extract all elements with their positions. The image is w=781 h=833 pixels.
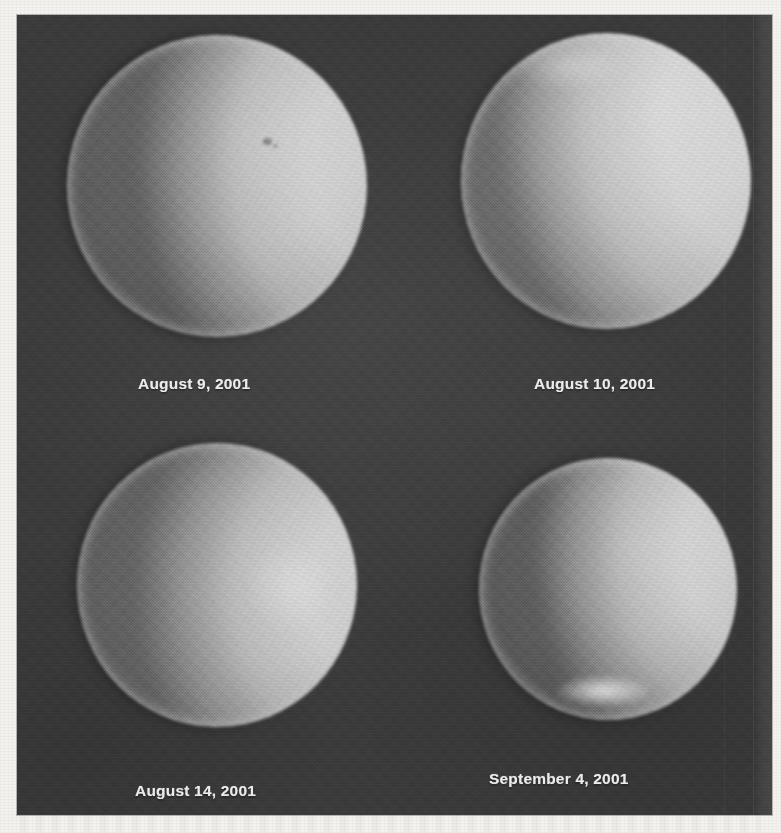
panel-september-4: September 4, 2001 bbox=[395, 415, 772, 815]
caption-september-4: September 4, 2001 bbox=[489, 770, 629, 788]
scanned-page: August 9, 2001 August 10, 2001 Augus bbox=[0, 0, 781, 833]
planet-disk-september-4 bbox=[479, 458, 737, 720]
disk-body bbox=[67, 35, 367, 337]
caption-august-10: August 10, 2001 bbox=[534, 375, 655, 393]
planet-disk-august-14 bbox=[77, 443, 357, 727]
panel-august-14: August 14, 2001 bbox=[17, 415, 417, 815]
disk-body bbox=[479, 458, 737, 720]
caption-august-9: August 9, 2001 bbox=[138, 375, 250, 393]
image-plate: August 9, 2001 August 10, 2001 Augus bbox=[17, 15, 772, 815]
planet-disk-august-10 bbox=[461, 33, 751, 329]
caption-august-14: August 14, 2001 bbox=[135, 782, 256, 800]
disk-body bbox=[461, 33, 751, 329]
panel-august-10: August 10, 2001 bbox=[395, 15, 772, 405]
planet-disk-august-9 bbox=[67, 35, 367, 337]
disk-body bbox=[77, 443, 357, 727]
panel-august-9: August 9, 2001 bbox=[17, 15, 417, 405]
